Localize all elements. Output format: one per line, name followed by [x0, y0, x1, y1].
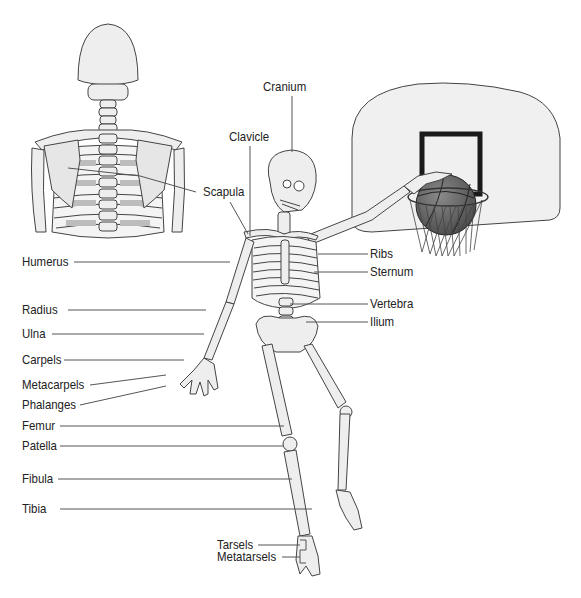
label-ulna: Ulna — [22, 327, 46, 341]
right-foot — [336, 490, 362, 530]
leader-scapula — [230, 202, 248, 234]
cervical-spine — [278, 212, 290, 234]
label-humerus: Humerus — [22, 255, 68, 269]
label-sternum: Sternum — [370, 265, 413, 279]
sternum — [281, 240, 289, 284]
left-forearm — [204, 302, 234, 360]
label-femur: Femur — [22, 419, 55, 433]
basketball-hoop — [352, 83, 560, 256]
leader-phalanges — [80, 386, 166, 405]
left-femur — [262, 344, 292, 436]
right-femur — [304, 344, 346, 408]
label-ribs: Ribs — [370, 247, 393, 261]
label-carpels: Carpels — [22, 353, 61, 367]
label-scapula: Scapula — [203, 185, 244, 199]
inset-thoracic-spine — [99, 134, 117, 231]
inset-right-humerus — [172, 148, 185, 232]
label-metatarsels: Metatarsels — [217, 550, 276, 564]
eye-socket-right — [294, 181, 304, 191]
eye-socket-left — [283, 180, 291, 188]
label-phalanges: Phalanges — [22, 398, 76, 412]
right-tibia-fibula — [338, 414, 350, 490]
label-patella: Patella — [22, 439, 57, 453]
left-humerus — [226, 238, 254, 304]
left-patella — [283, 437, 297, 451]
skeleton-diagram: Cranium Clavicle Scapula Ribs Sternum Ve… — [0, 0, 581, 598]
label-fibula: Fibula — [22, 472, 53, 486]
inset-left-humerus — [32, 148, 47, 232]
leader-metacarpels — [90, 375, 166, 385]
skull — [268, 150, 316, 212]
label-clavicle: Clavicle — [229, 130, 269, 144]
inset-cervical-spine — [88, 84, 128, 132]
label-cranium: Cranium — [263, 80, 306, 94]
inset-skull — [78, 24, 138, 85]
posterior-view-inset — [32, 24, 185, 238]
label-vertebra: Vertebra — [370, 297, 413, 311]
label-radius: Radius — [22, 303, 58, 317]
label-metacarpels: Metacarpels — [22, 378, 84, 392]
label-tibia: Tibia — [22, 502, 46, 516]
left-tibia-fibula — [284, 450, 310, 536]
label-ilium: Ilium — [370, 315, 394, 329]
left-hand — [180, 358, 218, 396]
